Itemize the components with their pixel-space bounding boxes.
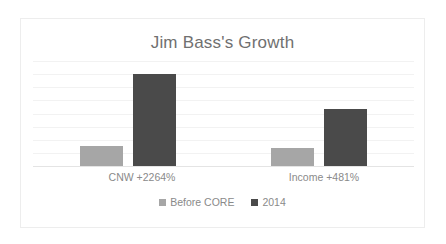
legend-swatch-2014-icon: [251, 199, 258, 206]
chart-legend: Before CORE 2014: [21, 196, 424, 208]
bar[interactable]: [80, 146, 123, 166]
gridline: [33, 61, 414, 62]
gridline: [33, 100, 414, 101]
plot-area: [33, 61, 414, 166]
bar[interactable]: [324, 109, 367, 166]
legend-label-2014: 2014: [262, 196, 285, 208]
axis-baseline: [33, 166, 414, 167]
bar[interactable]: [271, 148, 314, 166]
gridline: [33, 74, 414, 75]
legend-item-2014[interactable]: 2014: [251, 196, 285, 208]
category-label-cnw: CNW +2264%: [67, 171, 217, 183]
chart-frame: Jim Bass's Growth CNW +2264% Income +481…: [20, 18, 425, 228]
category-label-income: Income +481%: [249, 171, 399, 183]
gridline: [33, 87, 414, 88]
legend-swatch-before-core-icon: [159, 199, 166, 206]
chart-title: Jim Bass's Growth: [21, 33, 424, 53]
legend-item-before-core[interactable]: Before CORE: [159, 196, 234, 208]
bar[interactable]: [133, 74, 176, 166]
legend-label-before-core: Before CORE: [170, 196, 234, 208]
